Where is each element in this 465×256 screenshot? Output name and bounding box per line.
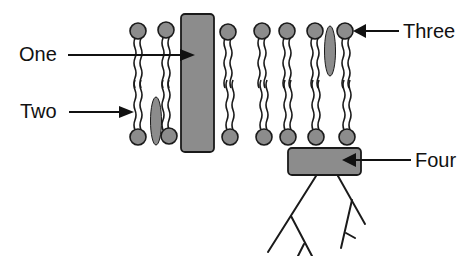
phospholipid: [279, 23, 296, 145]
phospholipid: [254, 23, 272, 145]
phospholipid: [337, 23, 355, 145]
arrow-two: [69, 106, 134, 118]
label-two: Two: [20, 101, 57, 121]
label-arrows: [68, 24, 411, 167]
transmembrane-protein: [181, 14, 214, 152]
lipid-bilayer: [130, 22, 355, 145]
arrow-four: [342, 153, 411, 167]
label-one: One: [19, 44, 57, 64]
arrow-one: [68, 49, 195, 61]
label-four: Four: [415, 150, 456, 170]
arrow-three: [353, 24, 399, 38]
molecule-two: [151, 97, 162, 145]
membrane-diagram: [0, 0, 465, 256]
molecule-three: [325, 26, 336, 76]
carbohydrate-chain-branches: [268, 176, 365, 256]
label-three: Three: [403, 21, 455, 41]
phospholipid: [130, 23, 146, 145]
phospholipid: [220, 24, 238, 145]
phospholipid: [307, 23, 324, 145]
